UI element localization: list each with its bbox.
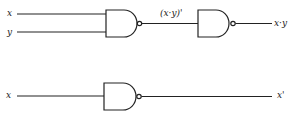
input-label-x-bottom: x xyxy=(6,91,11,100)
nand-gate-3 xyxy=(104,83,136,110)
inversion-bubble-2 xyxy=(231,21,235,25)
nand-gate-1 xyxy=(106,10,137,37)
input-label-y: y xyxy=(7,28,12,37)
logic-diagram xyxy=(0,0,293,122)
nand-gate-2 xyxy=(198,10,229,37)
output-label-bottom: x' xyxy=(277,91,285,100)
inversion-bubble-3 xyxy=(137,94,141,98)
inversion-bubble-1 xyxy=(137,21,141,25)
output-label-top: x·y xyxy=(274,19,287,28)
input-label-x: x xyxy=(7,9,12,18)
intermediate-label: (x·y)' xyxy=(160,9,183,18)
